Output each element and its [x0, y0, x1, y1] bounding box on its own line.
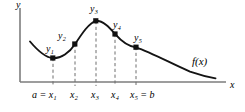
point-label-y4-base: y: [113, 19, 117, 30]
data-point-4: [112, 31, 117, 36]
tick-label-x1-prefix: a =: [32, 89, 49, 100]
point-label-y5-sub: 5: [139, 37, 142, 44]
tick-label-x5: x5 = b: [130, 90, 155, 100]
data-point-5: [133, 45, 138, 50]
x-axis-label: x: [230, 80, 234, 90]
point-label-y2-sub: 2: [63, 35, 66, 42]
data-point-3: [93, 18, 98, 23]
tick-label-x2: x2: [70, 90, 78, 100]
y-axis-label: y: [16, 0, 20, 10]
point-label-y1-base: y: [46, 43, 50, 54]
tick-label-x5-suffix: = b: [138, 89, 155, 100]
tick-label-x1-sub: 1: [53, 94, 56, 101]
tick-label-x1: a = x1: [32, 90, 57, 100]
point-label-y2-base: y: [58, 30, 62, 41]
tick-label-x3-sub: 3: [96, 94, 99, 101]
function-label: f(x): [192, 56, 207, 67]
data-point-1: [50, 55, 55, 60]
tick-label-x4: x4: [111, 90, 119, 100]
point-label-y5-base: y: [134, 32, 138, 43]
point-label-y5: y5: [134, 33, 142, 43]
point-label-y4-sub: 4: [118, 24, 121, 31]
point-label-y3-sub: 3: [95, 8, 98, 15]
point-label-y2: y2: [58, 31, 66, 41]
point-label-y1-sub: 1: [51, 48, 54, 55]
tick-label-x4-sub: 4: [116, 94, 119, 101]
tick-label-x2-base: x: [70, 89, 74, 100]
tick-label-x3: x3: [91, 90, 99, 100]
figure-container: y x f(x) y1 y2 y3 y4 y5 a = x1 x2 x3 x4 …: [0, 0, 245, 112]
point-label-y3: y3: [90, 4, 98, 14]
point-label-y4: y4: [113, 20, 121, 30]
tick-label-x2-sub: 2: [75, 94, 78, 101]
data-point-2: [72, 41, 77, 46]
tick-label-x3-base: x: [91, 89, 95, 100]
point-label-y1: y1: [46, 44, 54, 54]
point-label-y3-base: y: [90, 3, 94, 14]
tick-label-x4-base: x: [111, 89, 115, 100]
tick-label-x5-sub: 5: [135, 94, 138, 101]
tick-label-x5-base: x: [130, 89, 134, 100]
